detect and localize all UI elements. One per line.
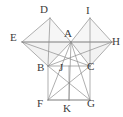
geometry-canvas xyxy=(0,0,123,117)
vertex-label-e: E xyxy=(10,32,17,43)
vertex-label-b: B xyxy=(37,62,44,73)
vertex-label-h: H xyxy=(112,36,120,47)
triangle-eab-region xyxy=(22,42,71,66)
vertex-label-d: D xyxy=(40,4,48,15)
vertex-label-i: I xyxy=(86,5,90,16)
vertex-label-j: J xyxy=(59,62,63,73)
vertex-label-g: G xyxy=(87,98,95,109)
vertex-label-f: F xyxy=(37,98,43,109)
vertex-label-c: C xyxy=(87,61,94,72)
vertex-label-k: K xyxy=(63,103,71,114)
geometry-figure: ABCDEFGHIJK xyxy=(0,0,123,117)
vertex-label-a: A xyxy=(64,28,72,39)
